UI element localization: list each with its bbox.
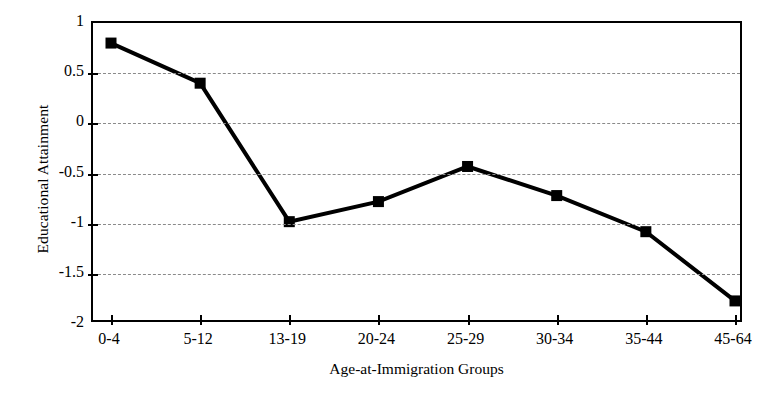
y-tick-label: -1.5 bbox=[22, 264, 84, 280]
y-tick-label: 1 bbox=[22, 13, 84, 29]
data-point-marker bbox=[730, 295, 741, 306]
x-tick-label: 25-29 bbox=[421, 330, 511, 348]
y-tick-label: -2 bbox=[22, 314, 84, 330]
gridline bbox=[93, 224, 740, 225]
x-tick-mark bbox=[378, 315, 380, 325]
x-tick-mark bbox=[735, 315, 737, 325]
data-point-marker bbox=[640, 226, 651, 237]
chart-figure: Educational Attainment 10.50-0.5-1-1.5-2… bbox=[0, 0, 768, 394]
x-tick-mark bbox=[646, 315, 648, 325]
x-tick-label: 35-44 bbox=[599, 330, 689, 348]
x-tick-label: 45-64 bbox=[688, 330, 768, 348]
x-tick-mark bbox=[468, 315, 470, 325]
x-axis-tick-labels: 0-45-1213-1920-2425-2930-3435-4445-64 bbox=[91, 330, 742, 352]
y-tick-mark bbox=[88, 123, 98, 125]
y-tick-mark bbox=[88, 73, 98, 75]
x-tick-mark bbox=[111, 315, 113, 325]
gridline bbox=[93, 174, 740, 175]
y-tick-mark bbox=[88, 224, 98, 226]
x-tick-label: 20-24 bbox=[331, 330, 421, 348]
x-tick-label: 0-4 bbox=[64, 330, 154, 348]
data-point-marker bbox=[284, 216, 295, 227]
data-point-marker bbox=[106, 38, 117, 49]
data-point-marker bbox=[373, 196, 384, 207]
x-axis-title: Age-at-Immigration Groups bbox=[91, 360, 742, 378]
x-tick-mark bbox=[289, 315, 291, 325]
y-tick-label: -1 bbox=[22, 214, 84, 230]
y-tick-mark bbox=[88, 174, 98, 176]
x-tick-label: 5-12 bbox=[153, 330, 243, 348]
y-tick-label: -0.5 bbox=[22, 164, 84, 180]
y-tick-label: 0.5 bbox=[22, 63, 84, 79]
data-point-marker bbox=[195, 78, 206, 89]
data-point-marker bbox=[551, 190, 562, 201]
x-tick-label: 13-19 bbox=[242, 330, 332, 348]
x-tick-label: 30-34 bbox=[510, 330, 600, 348]
x-tick-mark bbox=[200, 315, 202, 325]
x-tick-mark bbox=[557, 315, 559, 325]
gridline bbox=[93, 123, 740, 124]
plot-area bbox=[91, 21, 742, 322]
gridline bbox=[93, 73, 740, 74]
y-tick-mark bbox=[88, 274, 98, 276]
data-point-marker bbox=[462, 161, 473, 172]
gridline bbox=[93, 274, 740, 275]
y-tick-label: 0 bbox=[22, 113, 84, 129]
